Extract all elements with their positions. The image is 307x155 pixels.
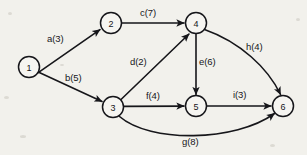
graph-svg: 1 2 3 4 5 6	[0, 0, 307, 155]
node-1-label: 1	[26, 63, 31, 73]
edge-label-a: a(3)	[47, 33, 64, 44]
edge-label-i: i(3)	[233, 89, 246, 100]
edge-label-h: h(4)	[246, 41, 263, 52]
edge-label-b: b(5)	[65, 72, 82, 83]
node-3-label: 3	[110, 103, 115, 113]
edge-label-e: e(6)	[199, 56, 216, 67]
node-4-label: 4	[193, 19, 198, 29]
node-5-label: 5	[193, 102, 198, 112]
edge-label-d: d(2)	[130, 56, 147, 67]
edge-label-g: g(8)	[182, 136, 199, 147]
diagram-canvas: 1 2 3 4 5 6 a(3) b(5) c(7) d(2) e(6) f(4…	[0, 0, 307, 155]
edge-h-4-to-6	[205, 30, 281, 95]
edge-label-f: f(4)	[146, 90, 160, 101]
edge-label-c: c(7)	[140, 7, 156, 18]
node-2-label: 2	[108, 19, 113, 29]
node-6-label: 6	[280, 102, 285, 112]
